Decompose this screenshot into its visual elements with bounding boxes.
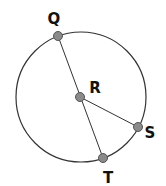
point-S [134, 123, 143, 132]
label-S: S [145, 124, 156, 142]
point-R [76, 93, 85, 102]
label-T: T [103, 169, 114, 186]
circle-diagram: Q R S T [0, 0, 166, 186]
point-T [99, 154, 108, 163]
label-Q: Q [48, 10, 61, 28]
label-R: R [89, 79, 101, 97]
point-Q [54, 32, 63, 41]
segment-RS [80, 97, 138, 127]
diagram-canvas: Q R S T [0, 0, 166, 186]
